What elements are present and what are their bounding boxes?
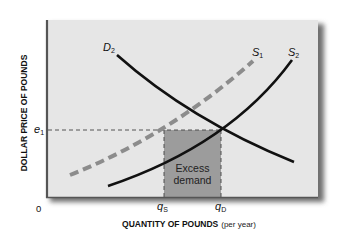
excess-label-line1: Excess bbox=[176, 162, 210, 174]
excess-label-line2: demand bbox=[174, 174, 212, 186]
chart: D2 S1 S2 Excess demand e1 0 qS qD QUANTI… bbox=[0, 0, 346, 238]
e1-tick-label: e1 bbox=[34, 123, 44, 136]
origin-label: 0 bbox=[36, 203, 41, 214]
y-axis-title: DOLLAR PRICE OF POUNDS bbox=[19, 54, 29, 171]
x-axis-title: QUANTITY OF POUNDS(per year) bbox=[122, 219, 256, 229]
